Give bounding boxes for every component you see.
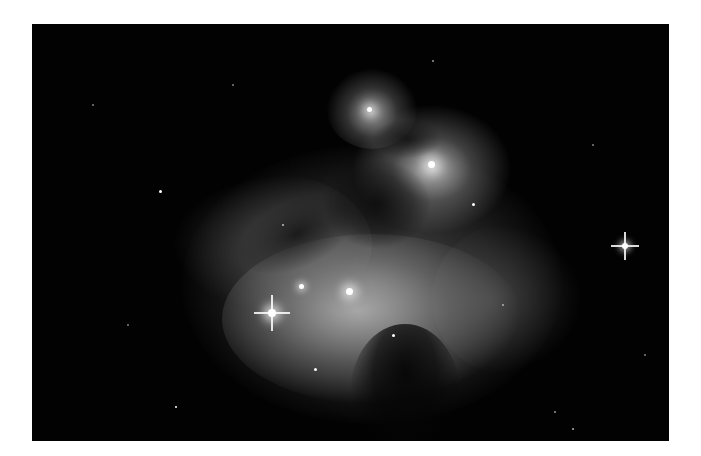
nebula-right-wisp: [432, 224, 582, 374]
nebula-photo: [32, 24, 669, 441]
field-star: [472, 203, 475, 206]
nebula-upper-right-lobe: [352, 104, 512, 234]
field-star: [592, 144, 594, 146]
star-top-lobe: [367, 107, 372, 112]
field-star: [175, 406, 177, 408]
nebula-glow-main: [182, 144, 562, 424]
field-star: [159, 190, 162, 193]
field-star: [92, 104, 94, 106]
field-star: [392, 334, 395, 337]
star-center: [346, 288, 353, 295]
field-star: [282, 224, 284, 226]
field-star: [644, 354, 646, 356]
field-star: [432, 60, 434, 62]
field-star: [554, 411, 556, 413]
field-star: [127, 324, 129, 326]
dark-pillar: [350, 324, 460, 441]
star-upper-right-lobe: [428, 161, 435, 168]
star-center-left: [299, 284, 304, 289]
dark-lane-center: [322, 159, 432, 249]
field-star: [502, 304, 504, 306]
nebula-top-lobe: [327, 69, 417, 149]
dark-lane-diagonal: [223, 175, 370, 293]
star-bright-left: [264, 305, 280, 321]
field-star: [232, 84, 234, 86]
nebula-left-wisp: [172, 174, 372, 314]
field-star: [314, 368, 317, 371]
field-star: [572, 428, 574, 430]
dark-lane-upper: [372, 119, 442, 159]
star-bright-right: [617, 238, 633, 254]
